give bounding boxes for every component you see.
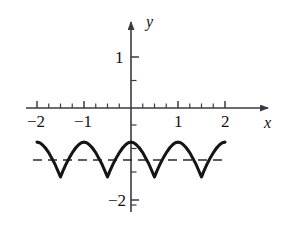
y-axis-major-ticks [131,57,139,200]
axes-group [26,22,268,212]
y-tick-label-neg2: −2 [108,192,126,209]
x-tick-label-1: 1 [174,113,183,130]
x-tick-label-2: 2 [221,113,230,130]
x-tick-label-neg2: −2 [27,113,45,130]
x-axis-label: x [264,115,271,131]
y-tick-label-1: 1 [115,49,124,66]
figure-container: −2 −1 1 2 1 −2 y x [0,0,295,229]
y-axis-label: y [146,14,153,30]
x-tick-label-neg1: −1 [74,113,92,130]
